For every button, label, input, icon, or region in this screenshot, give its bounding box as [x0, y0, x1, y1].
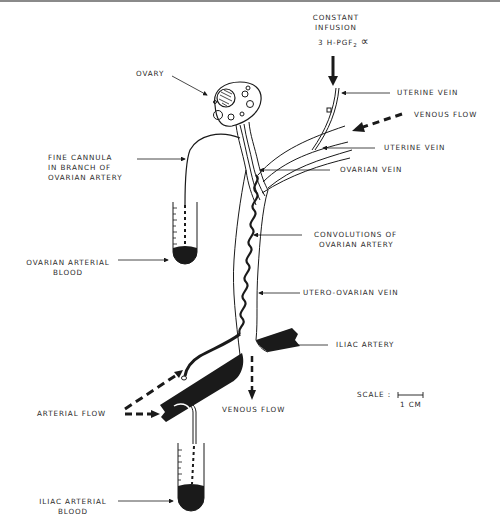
venous-flow-arrow-upper	[352, 114, 402, 132]
ovarian-pedicle-vessels	[236, 122, 268, 205]
label-scale-unit: 1 CM	[400, 400, 422, 410]
iliac-artery-segment-right	[256, 328, 300, 352]
leader-ovary	[172, 76, 207, 95]
label-constant-infusion: CONSTANT INFUSION	[306, 13, 366, 33]
label-ovarian-vein: OVARIAN VEIN	[340, 165, 402, 175]
tracer-alpha: ∝	[361, 35, 370, 48]
label-constant: CONSTANT	[306, 13, 366, 23]
label-ovarian-arterial-blood-2: BLOOD	[20, 268, 116, 278]
label-ovary: OVARY	[136, 69, 164, 79]
label-tracer: 3 H-PGF2 ∝	[318, 37, 370, 50]
label-uterine-vein-upper: UTERINE VEIN	[397, 88, 458, 98]
infusion-arrow	[328, 56, 338, 86]
label-iliac-arterial-blood: ILIAC ARTERIAL BLOOD	[30, 497, 116, 517]
test-tube-iliac	[178, 443, 204, 511]
label-fine-cannula: FINE CANNULA IN BRANCH OF OVARIAN ARTERY	[48, 153, 122, 183]
label-iliac-arterial-blood-2: BLOOD	[30, 507, 116, 517]
venous-flow-arrow-lower	[248, 356, 256, 400]
tracer-subscript: 2	[353, 42, 357, 48]
fine-cannula	[185, 134, 240, 205]
label-convolutions-1: CONVOLUTIONS OF	[314, 230, 397, 240]
label-ovarian-arterial-blood: OVARIAN ARTERIAL BLOOD	[20, 258, 116, 278]
label-fine-cannula-3: OVARIAN ARTERY	[48, 173, 122, 183]
label-fine-cannula-1: FINE CANNULA	[48, 153, 122, 163]
label-uterine-vein-lower: UTERINE VEIN	[384, 143, 445, 153]
label-venous-flow-lower: VENOUS FLOW	[222, 405, 285, 415]
label-arterial-flow: ARTERIAL FLOW	[37, 409, 106, 419]
ovarian-artery-convolutions	[239, 175, 258, 334]
scale-bar	[398, 392, 423, 398]
label-infusion: INFUSION	[306, 23, 366, 33]
tracer-name: 3 H-PGF	[318, 38, 353, 47]
label-convolutions: CONVOLUTIONS OF OVARIAN ARTERY	[314, 230, 397, 250]
label-iliac-arterial-blood-1: ILIAC ARTERIAL	[30, 497, 116, 507]
label-utero-ovarian-vein: UTERO-OVARIAN VEIN	[303, 288, 399, 298]
ovary	[214, 82, 262, 126]
label-venous-flow-upper: VENOUS FLOW	[414, 110, 477, 120]
utero-ovarian-vein	[233, 170, 268, 355]
infusion-catheter	[312, 88, 339, 150]
label-scale: SCALE :	[357, 390, 391, 400]
uterine-vein-branches	[258, 126, 352, 193]
artery-cut-end	[182, 376, 187, 380]
test-tube-ovarian	[173, 202, 197, 264]
label-ovarian-arterial-blood-1: OVARIAN ARTERIAL	[20, 258, 116, 268]
label-convolutions-2: OVARIAN ARTERY	[314, 240, 397, 250]
label-fine-cannula-2: IN BRANCH OF	[48, 163, 122, 173]
label-iliac-artery: ILIAC ARTERY	[336, 340, 394, 350]
